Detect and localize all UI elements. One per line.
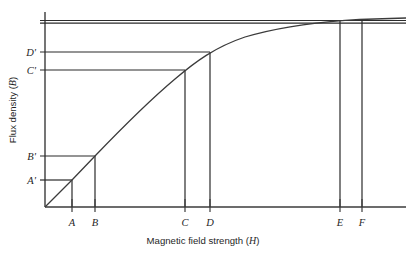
tick-label-d: D: [205, 217, 214, 228]
magnetisation-curve-path: [45, 18, 406, 207]
bh-curve-chart: A B C D E F D' C' B' A' Magnetic field s…: [0, 0, 410, 253]
magnetisation-curve-figure: A B C D E F D' C' B' A' Magnetic field s…: [0, 0, 410, 253]
y-axis-title: Flux density (B): [7, 77, 18, 143]
tick-label-b: B: [92, 217, 99, 228]
x-axis-title-text: Magnetic field strength (: [147, 235, 250, 246]
y-axis-title-text: Flux density (: [7, 85, 18, 143]
tick-label-d-prime: D': [25, 47, 37, 58]
tick-label-e: E: [336, 217, 344, 228]
tick-label-f: F: [358, 217, 366, 228]
x-axis-title: Magnetic field strength (H): [147, 235, 260, 246]
y-axis-title-close: ): [7, 77, 18, 80]
x-axis-title-close: ): [256, 235, 259, 246]
tick-label-c: C: [181, 217, 189, 228]
tick-label-a-prime: A': [26, 175, 36, 186]
tick-label-c-prime: C': [27, 65, 37, 76]
tick-label-a: A: [68, 217, 76, 228]
tick-label-b-prime: B': [27, 151, 36, 162]
